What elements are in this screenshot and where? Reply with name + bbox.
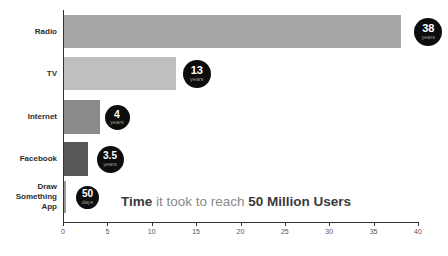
bar — [64, 15, 401, 48]
category-label: TV — [0, 69, 57, 79]
x-axis-tick-label: 0 — [53, 228, 73, 235]
value-badge: 4years — [105, 105, 130, 130]
chart-title-part3: 50 Million Users — [248, 194, 351, 209]
category-label: Facebook — [0, 154, 57, 164]
chart-title: Time it took to reach 50 Million Users — [121, 194, 351, 209]
category-label: Internet — [0, 112, 57, 122]
x-axis-tick-label: 5 — [97, 228, 117, 235]
x-axis-tick-mark — [196, 222, 197, 226]
badge-unit: years — [422, 35, 435, 41]
x-axis-tick-label: 35 — [364, 228, 384, 235]
badge-number: 50 — [82, 189, 93, 199]
badge-unit: days — [82, 200, 94, 206]
x-axis-tick-label: 40 — [408, 228, 428, 235]
x-axis-tick-label: 15 — [186, 228, 206, 235]
x-axis-tick-label: 10 — [142, 228, 162, 235]
x-axis-tick-mark — [152, 222, 153, 226]
x-axis-tick-label: 25 — [275, 228, 295, 235]
badge-number: 3.5 — [103, 151, 117, 161]
value-badge: 13years — [183, 60, 211, 88]
badge-number: 13 — [191, 65, 203, 76]
x-axis-tick-label: 30 — [319, 228, 339, 235]
bar — [64, 100, 100, 134]
badge-number: 38 — [422, 23, 434, 34]
x-axis-tick-mark — [285, 222, 286, 226]
x-axis-tick-mark — [418, 222, 419, 226]
chart-title-part2: it took to reach — [152, 194, 248, 209]
x-axis-tick-mark — [107, 222, 108, 226]
category-label: Draw Something App — [0, 182, 57, 212]
chart-title-part1: Time — [121, 194, 152, 209]
category-label: Radio — [0, 27, 57, 37]
x-axis-tick-mark — [241, 222, 242, 226]
bar — [64, 142, 88, 176]
x-axis-tick-mark — [374, 222, 375, 226]
badge-unit: years — [190, 77, 203, 83]
badge-unit: years — [110, 120, 123, 126]
value-badge: 3.5years — [97, 146, 124, 173]
badge-number: 4 — [114, 109, 120, 120]
badge-unit: years — [103, 162, 116, 168]
bar — [64, 181, 66, 213]
bar-chart: RadioTVInternetFacebookDraw Something Ap… — [0, 0, 448, 256]
value-badge: 50days — [76, 186, 99, 209]
value-badge: 38years — [414, 18, 442, 46]
x-axis-tick-mark — [329, 222, 330, 226]
x-axis-tick-label: 20 — [231, 228, 251, 235]
bar — [64, 57, 176, 90]
x-axis-tick-mark — [63, 222, 64, 226]
y-axis-line — [63, 10, 64, 222]
